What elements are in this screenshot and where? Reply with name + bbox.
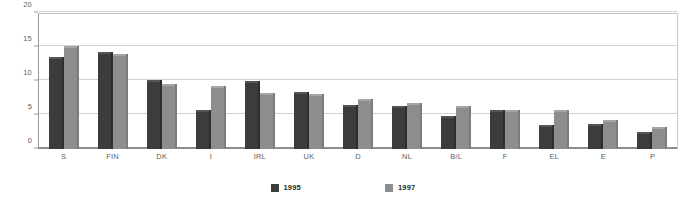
bar (554, 110, 569, 149)
gridline (39, 11, 677, 12)
bar-group (383, 13, 432, 149)
bar-group (186, 13, 235, 149)
bar-group (137, 13, 186, 149)
chart-legend: 19951997 (0, 183, 686, 192)
bar-group (530, 13, 579, 149)
bar (162, 84, 177, 149)
bar (113, 54, 128, 149)
bar (456, 106, 471, 149)
bar (49, 57, 64, 149)
bar (64, 46, 79, 149)
bar-group (481, 13, 530, 149)
y-tick-label: 15 (23, 34, 32, 43)
legend-label: 1997 (398, 183, 416, 192)
y-tick-label: 20 (23, 0, 32, 9)
bar-group (235, 13, 284, 149)
x-tick-label: D (333, 152, 382, 161)
bars-layer (39, 13, 677, 149)
bar-group (579, 13, 628, 149)
y-tick-mark (34, 114, 38, 115)
bar (603, 120, 618, 149)
bar (343, 105, 358, 149)
bar-shadow (371, 99, 373, 149)
bar (441, 116, 456, 149)
bar-shadow (224, 86, 226, 149)
legend-label: 1995 (284, 183, 302, 192)
x-tick-label: DK (137, 152, 186, 161)
x-tick-label: UK (284, 152, 333, 161)
bar-shadow (665, 127, 667, 149)
bar (98, 52, 113, 149)
bar (637, 132, 652, 149)
bar (652, 127, 667, 149)
bar (588, 124, 603, 149)
bar (211, 86, 226, 149)
x-tick-label: FIN (88, 152, 137, 161)
legend-swatch-icon (271, 184, 279, 192)
x-tick-label: IRL (235, 152, 284, 161)
x-tick-label: F (481, 152, 530, 161)
bar-shadow (273, 93, 275, 149)
x-tick-label: I (186, 152, 235, 161)
bar-shadow (469, 106, 471, 149)
bar (294, 92, 309, 149)
bar-shadow (616, 120, 618, 149)
bar-group (88, 13, 137, 149)
y-tick-mark (34, 148, 38, 149)
y-tick-mark (34, 12, 38, 13)
bar-shadow (322, 94, 324, 149)
y-tick-mark (34, 46, 38, 47)
y-tick-label: 10 (23, 68, 32, 77)
x-axis-labels: SFINDKIIRLUKDNLB/LFELEP (39, 152, 677, 161)
bar (490, 110, 505, 149)
x-tick-label: NL (383, 152, 432, 161)
bar-shadow (518, 110, 520, 149)
bar-group (432, 13, 481, 149)
y-axis: 05101520 (0, 13, 38, 149)
bar-group (284, 13, 333, 149)
x-tick-label: EL (530, 152, 579, 161)
x-tick-label: S (39, 152, 88, 161)
bar (505, 110, 520, 149)
bar (539, 125, 554, 149)
bar-group (333, 13, 382, 149)
x-tick-label: E (579, 152, 628, 161)
bar (407, 103, 422, 149)
bar (392, 106, 407, 149)
bar-shadow (175, 84, 177, 149)
x-tick-label: P (628, 152, 677, 161)
y-tick-label: 0 (28, 136, 32, 145)
bar (245, 81, 260, 149)
x-tick-label: B/L (432, 152, 481, 161)
bar-group (39, 13, 88, 149)
bar-shadow (420, 103, 422, 149)
bar-shadow (77, 46, 79, 149)
bar (260, 93, 275, 149)
bar (358, 99, 373, 149)
bar-shadow (567, 110, 569, 149)
bar-group (628, 13, 677, 149)
bar (147, 80, 162, 149)
legend-item[interactable]: 1995 (271, 183, 302, 192)
bar (309, 94, 324, 149)
bar-shadow (126, 54, 128, 149)
legend-swatch-icon (385, 184, 393, 192)
legend-item[interactable]: 1997 (385, 183, 416, 192)
y-tick-label: 5 (28, 102, 32, 111)
bar (196, 110, 211, 149)
bar-chart: 05101520 SFINDKIIRLUKDNLB/LFELEP 1995199… (0, 0, 686, 207)
y-tick-mark (34, 80, 38, 81)
